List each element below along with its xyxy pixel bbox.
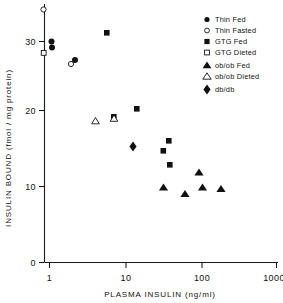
series-ob-ob-dieted	[92, 115, 118, 124]
x-tick-label-10: 10	[121, 273, 132, 283]
series-db-db	[129, 142, 136, 152]
legend-marker-filled-triangle	[203, 62, 212, 69]
series-ob-ob-fed	[159, 169, 226, 198]
legend-marker-filled-square	[204, 39, 209, 44]
legend-marker-open-square	[205, 50, 210, 55]
y-tick-label-30: 30	[25, 37, 36, 47]
data-point	[49, 45, 55, 51]
legend-label-gtg-fed: GTG Fed	[215, 37, 247, 46]
data-point	[104, 30, 110, 36]
data-point	[72, 57, 78, 63]
data-point	[216, 185, 225, 192]
y-axis-title: INSULIN BOUND (fmol / mg protein)	[4, 69, 13, 227]
legend-marker-open-triangle	[203, 73, 211, 79]
y-axis-ticks	[39, 42, 45, 263]
y-tick-label-10: 10	[25, 182, 36, 192]
legend-marker-open-circle	[205, 28, 210, 33]
x-tick-label-1000: 1000	[263, 273, 283, 283]
series-thin-fasted	[41, 7, 74, 67]
data-point	[134, 106, 140, 112]
legend-label-ob-ob-fed: ob/ob Fed	[215, 61, 250, 70]
x-axis-ticks	[50, 263, 277, 269]
y-tick-label-20: 20	[25, 106, 36, 116]
x-tick-label-100: 100	[194, 273, 210, 283]
legend: Thin Fed Thin Fasted GTG Fed GTG Dieted …	[203, 15, 260, 95]
plot-canvas: 0 10 20 30 1 10 100 1000 PLASMA INSULIN …	[0, 0, 283, 303]
x-axis-title: PLASMA INSULIN (ng/ml)	[104, 290, 216, 299]
data-point	[166, 138, 172, 144]
series-gtg-dieted	[41, 51, 46, 56]
data-point	[41, 51, 46, 56]
legend-label-db-db: db/db	[215, 85, 235, 94]
data-point	[68, 61, 73, 66]
series-thin-fed	[49, 39, 79, 64]
data-point	[159, 184, 168, 191]
legend-label-gtg-dieted: GTG Dieted	[215, 48, 256, 57]
data-point	[194, 169, 203, 176]
data-point	[41, 7, 46, 12]
data-point	[92, 118, 100, 124]
data-point	[167, 162, 173, 168]
data-point	[49, 39, 55, 45]
legend-label-ob-ob-dieted: ob/ob Dieted	[215, 72, 259, 81]
data-point	[180, 190, 189, 197]
data-point	[129, 142, 136, 152]
data-point	[161, 148, 167, 154]
legend-label-thin-fasted: Thin Fasted	[215, 26, 256, 35]
legend-marker-filled-diamond	[203, 85, 210, 95]
legend-marker-filled-circle	[204, 17, 209, 22]
series-gtg-fed	[104, 30, 173, 168]
x-tick-label-1: 1	[47, 273, 52, 283]
scatter-plot-figure: 0 10 20 30 1 10 100 1000 PLASMA INSULIN …	[0, 0, 283, 303]
y-tick-label-0: 0	[31, 258, 36, 268]
data-point	[198, 184, 207, 191]
legend-label-thin-fed: Thin Fed	[215, 15, 246, 24]
